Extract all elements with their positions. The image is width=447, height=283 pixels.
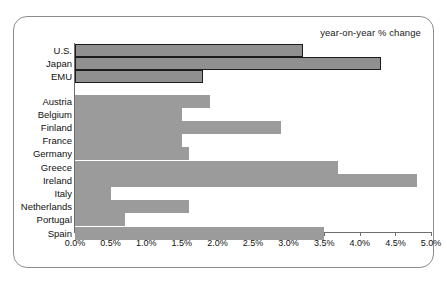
bar-category-label: Netherlands: [0, 200, 72, 213]
bar[interactable]: [75, 95, 210, 108]
bar-category-label: Ireland: [0, 174, 72, 187]
bar[interactable]: [75, 147, 189, 160]
bar-row[interactable]: France: [14, 134, 435, 147]
bar[interactable]: [75, 174, 417, 187]
bar-row[interactable]: Italy: [14, 187, 435, 200]
bar[interactable]: [75, 213, 125, 226]
bar-category-label: Austria: [0, 95, 72, 108]
chart-annotation-label: year-on-year % change: [320, 27, 421, 38]
bar[interactable]: [75, 57, 381, 70]
bar-category-label: U.S.: [0, 44, 72, 57]
bar-category-label: Germany: [0, 147, 72, 160]
bar[interactable]: [75, 44, 303, 57]
bar[interactable]: [75, 121, 281, 134]
bar-row[interactable]: Greece: [14, 161, 435, 174]
bar-row[interactable]: Germany: [14, 147, 435, 160]
bar-category-label: Italy: [0, 187, 72, 200]
bar-row[interactable]: Portugal: [14, 213, 435, 226]
bar-category-label: France: [0, 134, 72, 147]
bar-row[interactable]: U.S.: [14, 44, 435, 57]
bar-chart-plot-area: year-on-year % change 0.0%0.5%1.0%1.5%2.…: [14, 17, 435, 269]
bar-row[interactable]: Spain: [14, 227, 435, 240]
bar-category-label: Finland: [0, 121, 72, 134]
bar[interactable]: [75, 227, 324, 240]
bar-category-label: EMU: [0, 70, 72, 83]
bar-row[interactable]: Austria: [14, 95, 435, 108]
bar[interactable]: [75, 161, 338, 174]
bar[interactable]: [75, 187, 111, 200]
bar-category-label: Japan: [0, 57, 72, 70]
bar-category-label: Belgium: [0, 108, 72, 121]
bar-row[interactable]: Finland: [14, 121, 435, 134]
bar-category-label: Portugal: [0, 213, 72, 226]
bar[interactable]: [75, 108, 182, 121]
bar[interactable]: [75, 200, 189, 213]
bar-category-label: Spain: [0, 227, 72, 240]
bar-row[interactable]: EMU: [14, 70, 435, 83]
bar-row[interactable]: Japan: [14, 57, 435, 70]
bar[interactable]: [75, 70, 203, 83]
bar-row[interactable]: Ireland: [14, 174, 435, 187]
chart-frame: year-on-year % change 0.0%0.5%1.0%1.5%2.…: [13, 16, 434, 268]
bar-row[interactable]: Netherlands: [14, 200, 435, 213]
bar-row[interactable]: Belgium: [14, 108, 435, 121]
bar[interactable]: [75, 134, 182, 147]
bar-category-label: Greece: [0, 161, 72, 174]
